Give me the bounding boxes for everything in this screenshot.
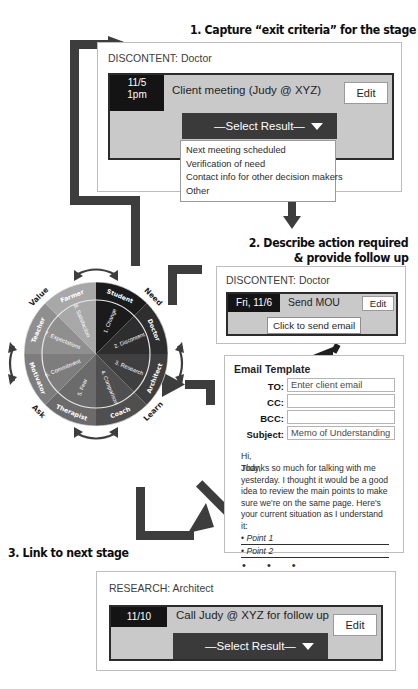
email-rule-1: [241, 544, 389, 545]
panel2-date-chip: Fri, 11/6: [228, 294, 280, 312]
email-bullet-1: • Point 1: [241, 533, 273, 543]
wheel-role-teacher: Teacher: [29, 316, 46, 344]
email-template-title: Email Template: [234, 363, 310, 375]
email-field-bcc[interactable]: [287, 410, 395, 424]
wheel-quadrant-learn: Learn: [142, 400, 165, 423]
wheel-stage-8: 8. Satisfaction: [73, 303, 92, 338]
wheel-role-motivator: Motivator: [28, 361, 47, 395]
wheel-stage-4: 4. Comparison: [100, 369, 119, 405]
email-field-label-cc: CC:: [234, 397, 284, 408]
panel-research-architect: RESEARCH: Architect 11/10 Call Judy @ XY…: [96, 571, 396, 671]
wheel-role-therapist: Therapist: [55, 403, 88, 422]
email-field-subject[interactable]: Memo of Understanding: [287, 426, 395, 440]
wheel-right-stem: [168, 265, 202, 305]
bullet-marker-icon: •: [241, 546, 244, 556]
wheel-stage-3: 3. Research: [114, 359, 144, 376]
wheel-role-doctor: Doctor: [147, 318, 162, 342]
heading-step-3: 3. Link to next stage: [8, 546, 129, 560]
email-rule-2: [241, 557, 389, 558]
wheel-role-farmer: Farmer: [59, 288, 85, 304]
arrow-panel3-to-wheel: [136, 487, 194, 540]
diagram-canvas: 1. Capture “exit criteria” for the stage…: [0, 0, 418, 689]
email-field-label-bcc: BCC:: [234, 413, 284, 424]
wheel-stage-6: 6. Commitment: [44, 358, 81, 378]
panel-discontent-doctor-meeting: DISCONTENT: Doctor 11/5 1pm Client meeti…: [97, 42, 402, 192]
email-body-text: Thanks so much for talking with me yeste…: [241, 463, 389, 533]
panel1-select-label: —Select Result—: [214, 120, 305, 132]
heading-step-2-line1: 2. Describe action required: [249, 236, 409, 250]
panel-discontent-doctor-mou: DISCONTENT: Doctor Fri, 11/6 Send MOU Ed…: [216, 266, 406, 344]
wheel-labels: NeedLearnAskValueStudentDoctorArchitectC…: [22, 280, 170, 428]
panel3-date-chip: 11/10: [111, 607, 167, 627]
email-ellipsis: • • •: [242, 559, 305, 571]
sales-cycle-wheel: NeedLearnAskValueStudentDoctorArchitectC…: [22, 280, 170, 428]
panel3-title: RESEARCH: Architect: [109, 582, 213, 594]
wheel-stage-5: 5. Fear: [76, 378, 88, 397]
email-bullet-1-text: Point 1: [246, 533, 273, 543]
panel2-task-label: Send MOU: [288, 296, 340, 308]
panel1-edit-button[interactable]: Edit: [344, 82, 388, 104]
wheel-quadrant-ask: Ask: [30, 403, 47, 420]
panel3-task-label: Call Judy @ XYZ for follow up: [176, 609, 329, 621]
wheel-role-student: Student: [106, 287, 134, 304]
heading-step-2-line2: & provide follow up: [293, 251, 408, 265]
panel2-title: DISCONTENT: Doctor: [226, 274, 330, 286]
wheel-quadrant-need: Need: [142, 286, 164, 308]
dropdown-option[interactable]: Next meeting scheduled: [181, 144, 335, 158]
panel2-task-row: Fri, 11/6 Send MOU Edit Click to send em…: [226, 292, 398, 336]
panel1-select-result[interactable]: —Select Result—: [182, 113, 337, 139]
wheel-stage-1: 1. Change: [102, 308, 117, 334]
wheel-role-architect: Architect: [145, 362, 164, 394]
panel1-date-chip: 11/5 1pm: [110, 75, 164, 111]
dropdown-option[interactable]: Verification of need: [181, 158, 335, 172]
wheel-role-coach: Coach: [109, 405, 131, 420]
bullet-marker-icon: •: [241, 533, 244, 543]
panel3-select-result[interactable]: —Select Result—: [173, 633, 328, 659]
email-bullet-2-text: Point 2: [246, 546, 273, 556]
panel1-dropdown-options[interactable]: Next meeting scheduled Verification of n…: [180, 140, 336, 202]
wheel-stage-2: 2. Discontent: [113, 331, 145, 349]
email-field-label-to: TO:: [234, 381, 284, 392]
dropdown-option[interactable]: Contact info for other decision makers: [181, 171, 335, 185]
arrow-down-to-step2: [283, 200, 301, 229]
panel2-edit-button[interactable]: Edit: [362, 296, 394, 311]
panel2-send-email-button[interactable]: Click to send email: [267, 317, 361, 334]
chevron-down-icon: [302, 643, 314, 650]
wheel-quadrant-value: Value: [27, 285, 50, 308]
heading-step-1: 1. Capture “exit criteria” for the stage: [190, 23, 416, 37]
panel-email-template: Email Template TO: Enter client email CC…: [224, 355, 404, 553]
wheel-stage-7: 7. Expectations: [44, 330, 82, 350]
dropdown-option[interactable]: Other: [181, 185, 335, 199]
chevron-down-icon: [311, 123, 323, 130]
panel3-edit-button[interactable]: Edit: [333, 614, 377, 636]
email-bullet-2: • Point 2: [241, 546, 273, 556]
email-field-cc[interactable]: [287, 394, 395, 408]
panel1-title: DISCONTENT: Doctor: [108, 52, 212, 64]
email-field-label-subject: Subject:: [227, 429, 284, 440]
panel3-task-row: 11/10 Call Judy @ XYZ for follow up Edit…: [109, 605, 383, 661]
email-field-to[interactable]: Enter client email: [287, 378, 395, 392]
panel3-select-label: —Select Result—: [205, 640, 296, 652]
panel1-task-label: Client meeting (Judy @ XYZ): [172, 84, 321, 96]
